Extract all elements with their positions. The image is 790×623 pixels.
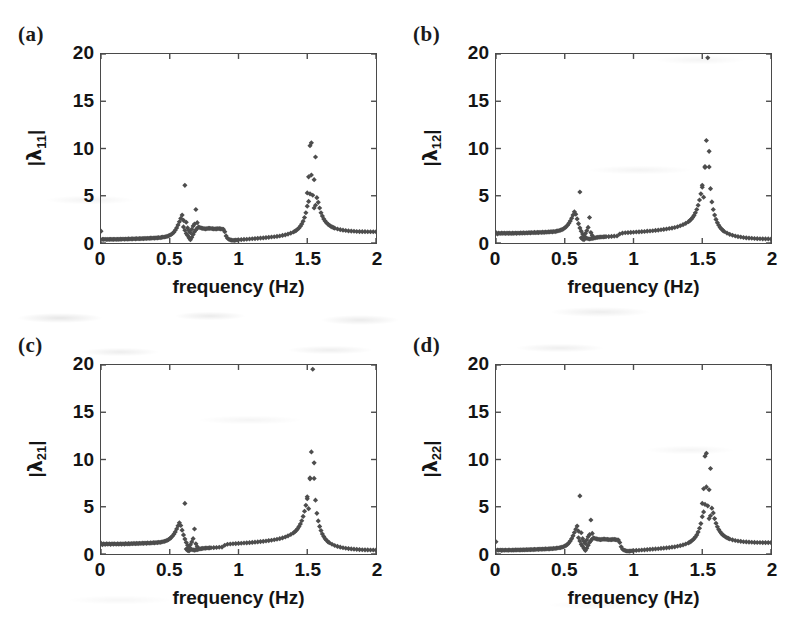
x-tick-labels-a: 00.511.52 [100, 248, 377, 274]
x-tick-a-4: 2 [372, 248, 383, 270]
data-points-d [496, 451, 771, 554]
panel-d: (d) |λ22| 05101520 00.511.52 frequency (… [395, 311, 790, 622]
data-point [577, 189, 582, 194]
panel-b: (b) |λ12| 05101520 00.511.52 frequency (… [395, 0, 790, 311]
data-point [307, 475, 312, 480]
data-points-c [101, 367, 376, 554]
data-point [310, 367, 315, 372]
data-point [708, 466, 713, 471]
data-point [182, 501, 187, 506]
data-point [314, 511, 319, 516]
data-point [702, 164, 707, 169]
panel-label-d: (d) [413, 333, 440, 358]
plot-area-d [495, 364, 772, 555]
data-point [709, 506, 714, 511]
panel-label-b: (b) [413, 22, 440, 47]
x-tick-a-3: 1.5 [295, 248, 321, 270]
data-point [317, 524, 322, 529]
plot-area-b [495, 53, 772, 244]
data-point [312, 476, 317, 481]
y-axis-label-c: |λ21| [24, 440, 50, 477]
y-axis-label-a: |λ11| [23, 130, 49, 166]
data-point [575, 216, 580, 221]
x-tick-c-2: 1 [233, 559, 244, 581]
y-tick-b-2: 10 [468, 138, 489, 160]
data-point [704, 138, 709, 143]
y-tick-a-4: 20 [73, 42, 94, 64]
y-tick-c-2: 10 [73, 449, 94, 471]
x-axis-label-c: frequency (Hz) [100, 587, 377, 609]
x-tick-b-1: 0.5 [551, 248, 577, 270]
data-point [696, 203, 701, 208]
y-tick-labels-c: 05101520 [52, 364, 94, 555]
data-point [193, 207, 198, 212]
scatter-svg-d [496, 365, 771, 554]
data-point [302, 509, 307, 514]
data-point [709, 199, 714, 204]
data-point [317, 205, 322, 210]
x-axis-label-b: frequency (Hz) [495, 276, 772, 298]
x-tick-b-2: 1 [628, 248, 639, 270]
y-tick-d-1: 5 [478, 496, 489, 518]
y-tick-d-3: 15 [468, 401, 489, 423]
x-tick-b-0: 0 [490, 248, 501, 270]
y-tick-a-0: 0 [83, 233, 94, 255]
y-tick-labels-d: 05101520 [447, 364, 489, 555]
y-axis-label-b-text: |λ12| [420, 129, 441, 166]
scatter-svg-b [496, 54, 771, 243]
x-tick-b-3: 1.5 [690, 248, 716, 270]
y-axis-label-b-subscript: 12 [429, 135, 444, 149]
y-tick-d-4: 20 [468, 353, 489, 375]
x-tick-c-4: 2 [372, 559, 383, 581]
data-point [711, 207, 716, 212]
plot-area-c [100, 364, 377, 555]
y-tick-b-3: 15 [468, 90, 489, 112]
tick-marks-a [101, 54, 376, 243]
data-point [708, 186, 713, 191]
y-axis-label-c-text: |λ21| [25, 440, 46, 477]
data-point [698, 521, 703, 526]
data-point [697, 197, 702, 202]
data-point [313, 154, 318, 159]
data-point [312, 177, 317, 182]
data-point [301, 514, 306, 519]
data-point [314, 195, 319, 200]
data-point [707, 149, 712, 154]
tick-marks-c [101, 365, 376, 554]
data-point [712, 213, 717, 218]
data-point [712, 516, 717, 521]
y-axis-label-d: |λ22| [419, 440, 445, 477]
y-tick-b-1: 5 [478, 185, 489, 207]
y-tick-c-0: 0 [83, 544, 94, 566]
data-point [306, 199, 311, 204]
data-point [700, 514, 705, 519]
scatter-svg-a [101, 54, 376, 243]
data-point [701, 509, 706, 514]
x-tick-a-0: 0 [95, 248, 106, 270]
data-point [496, 539, 499, 544]
y-tick-labels-b: 05101520 [447, 53, 489, 244]
data-point [587, 215, 592, 220]
x-tick-labels-c: 00.511.52 [100, 559, 377, 585]
data-point [705, 55, 710, 60]
y-axis-label-a-text: |λ11| [24, 130, 45, 166]
x-tick-a-2: 1 [233, 248, 244, 270]
data-point [182, 183, 187, 188]
data-point [305, 204, 310, 209]
x-tick-d-1: 0.5 [551, 559, 577, 581]
y-tick-a-2: 10 [73, 138, 94, 160]
data-point [312, 460, 317, 465]
panel-label-c: (c) [18, 333, 43, 358]
data-point [101, 229, 104, 234]
y-tick-c-1: 5 [83, 496, 94, 518]
x-tick-b-4: 2 [767, 248, 778, 270]
y-tick-a-3: 15 [73, 90, 94, 112]
y-axis-label-d-subscript: 22 [429, 446, 444, 460]
y-tick-d-0: 0 [478, 544, 489, 566]
data-point [181, 532, 186, 537]
x-tick-a-1: 0.5 [156, 248, 182, 270]
x-tick-c-0: 0 [95, 559, 106, 581]
y-axis-label-d-text: |λ22| [420, 440, 441, 477]
x-tick-d-2: 1 [628, 559, 639, 581]
tick-marks-d [496, 365, 771, 554]
